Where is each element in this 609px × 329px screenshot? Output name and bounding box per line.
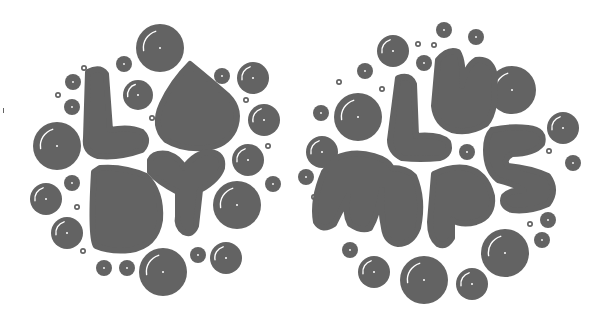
left-bubble [119, 260, 135, 276]
left-bubble [33, 122, 81, 170]
left-bubble [149, 115, 155, 121]
right-bubble [540, 212, 556, 228]
left-bubble [237, 62, 269, 94]
letter-u-balloon [434, 51, 495, 131]
letter-p-balloon [430, 168, 492, 246]
right-bubble [377, 35, 409, 67]
left-bubble [51, 217, 83, 249]
left-bubble [96, 260, 112, 276]
right-bubble [436, 22, 452, 38]
right-bubble [481, 229, 529, 277]
right-bubble [379, 86, 385, 92]
left-bubble [190, 247, 206, 263]
right-bubble [336, 79, 342, 85]
right-bubble [527, 221, 533, 227]
right-bubble [400, 256, 448, 304]
left-bubble [64, 99, 80, 115]
letter-s-balloon [486, 127, 553, 210]
right-bubble [358, 256, 390, 288]
left-bubble [210, 242, 242, 274]
left-bubble [64, 175, 80, 191]
left-bubble [248, 104, 280, 136]
left-bubble [80, 248, 86, 254]
right-bubble [298, 169, 314, 185]
right-bubble [416, 55, 432, 71]
right-bubble [534, 232, 550, 248]
right-bubble [415, 41, 421, 47]
right-bubble [468, 29, 484, 45]
right-bubble [546, 148, 552, 154]
left-bubble [265, 143, 271, 149]
stray-mark [3, 108, 4, 113]
left-bubble [116, 56, 132, 72]
left-bubble [136, 24, 184, 72]
right-bubble [342, 242, 358, 258]
right-bubble [565, 155, 581, 171]
left-bubble [65, 74, 81, 90]
artwork-canvas: LADY LUMPS [0, 0, 609, 329]
left-bubble [243, 97, 249, 103]
left-bubble [213, 181, 261, 229]
right-bubble [431, 42, 437, 48]
balloon-lettering-illustration [0, 0, 609, 329]
left-bubble [214, 68, 230, 84]
left-bubble [55, 92, 61, 98]
left-bubble [30, 183, 62, 215]
left-bubble [74, 204, 80, 210]
right-bubble [459, 144, 475, 160]
left-bubble [123, 80, 153, 110]
left-bubble [139, 248, 187, 296]
left-bubble [265, 176, 281, 192]
right-bubble [313, 105, 329, 121]
right-bubble [547, 112, 579, 144]
letter-m-balloon [315, 153, 420, 244]
letter-d-balloon [92, 168, 160, 251]
right-bubble [334, 93, 382, 141]
right-bubble [357, 63, 373, 79]
right-bubble [456, 268, 488, 300]
left-bubble [232, 144, 264, 176]
